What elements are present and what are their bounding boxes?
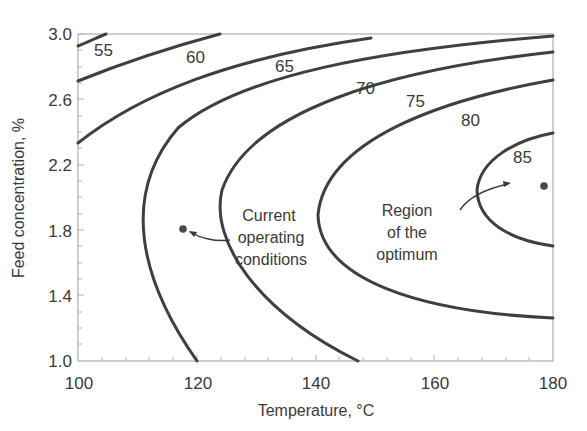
current-annotation-line2: operating xyxy=(238,229,305,246)
y-tick-3-0: 3.0 xyxy=(48,25,72,44)
y-tick-labels: 3.0 2.6 2.2 1.8 1.4 1.0 xyxy=(48,25,72,371)
y-axis-label: Feed concentration, % xyxy=(10,118,27,278)
x-tick-180: 180 xyxy=(539,374,567,393)
current-annotation-line3: conditions xyxy=(235,251,307,268)
x-axis-ticks xyxy=(102,355,529,361)
contour-label-85: 85 xyxy=(513,148,532,167)
y-tick-1-4: 1.4 xyxy=(48,287,72,306)
optimum-point xyxy=(540,182,548,190)
contour-labels: 55 60 65 70 75 80 85 xyxy=(94,41,532,167)
contour-label-75: 75 xyxy=(406,92,425,111)
y-tick-1-0: 1.0 xyxy=(48,352,72,371)
x-tick-140: 140 xyxy=(302,374,330,393)
optimum-annotation-line3: optimum xyxy=(376,246,437,263)
optimum-arrowhead xyxy=(503,181,511,187)
y-tick-2-6: 2.6 xyxy=(48,91,72,110)
contour-80 xyxy=(318,80,553,318)
y-tick-2-2: 2.2 xyxy=(48,156,72,175)
contour-label-80: 80 xyxy=(461,111,480,130)
optimum-annotation-line1: Region xyxy=(382,202,433,219)
current-annotation-line1: Current xyxy=(242,207,296,224)
operating-points xyxy=(179,182,548,233)
current-arrowhead xyxy=(189,231,197,237)
contour-label-70: 70 xyxy=(356,79,375,98)
current-operating-point xyxy=(179,225,187,233)
x-tick-labels: 100 120 140 160 180 xyxy=(65,374,567,393)
x-axis-label: Temperature, °C xyxy=(258,402,375,419)
response-surface-contour-chart: 55 60 65 70 75 80 85 Current operating c… xyxy=(0,0,587,431)
y-tick-1-8: 1.8 xyxy=(48,222,72,241)
contour-label-60: 60 xyxy=(186,48,205,67)
x-tick-100: 100 xyxy=(65,374,93,393)
x-tick-120: 120 xyxy=(184,374,212,393)
x-tick-160: 160 xyxy=(421,374,449,393)
optimum-annotation-line2: of the xyxy=(387,224,427,241)
contour-65 xyxy=(78,38,371,143)
contour-lines xyxy=(78,34,553,361)
contour-label-55: 55 xyxy=(94,41,113,60)
optimum-arrow xyxy=(460,184,508,210)
contour-label-65: 65 xyxy=(275,57,294,76)
